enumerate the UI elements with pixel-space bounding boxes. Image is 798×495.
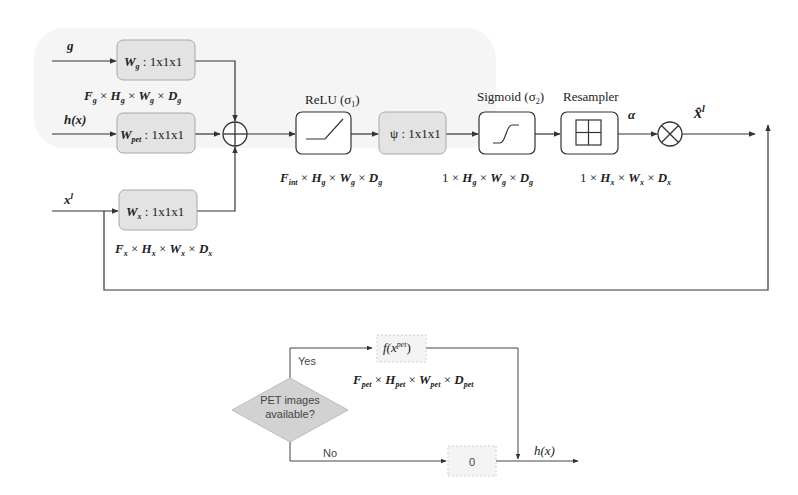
- resampler-block: [561, 112, 618, 154]
- decision-text-line1: PET images: [260, 394, 320, 406]
- psi-block-label: ψ : 1x1x1: [390, 126, 441, 141]
- alpha-label: α: [628, 107, 636, 122]
- resampler-label: Resampler: [563, 89, 619, 104]
- yes-label: Yes: [298, 355, 316, 367]
- multiply-operator-icon: [658, 122, 682, 146]
- attention-gate-diagram: g h(x) xl Wg : 1x1x1 Wpet : 1x1x1 Wx : 1…: [0, 0, 798, 495]
- dims-resampler-out: 1 × Hx × Wx × Dx: [580, 170, 671, 187]
- dims-g: Fg × Hg × Wg × Dg: [83, 88, 181, 105]
- input-g-label: g: [66, 38, 74, 53]
- dims-x: Fx × Hx × Wx × Dx: [114, 241, 212, 258]
- wg-block-label: Wg : 1x1x1: [124, 54, 182, 71]
- no-label: No: [323, 447, 337, 459]
- output-xhat-label: x̂l: [693, 103, 705, 121]
- wpet-block-label: Wpet : 1x1x1: [120, 127, 184, 144]
- sigmoid-label: Sigmoid (σ2): [477, 89, 544, 106]
- dims-sigmoid-out: 1 × Hg × Wg × Dg: [442, 170, 533, 187]
- sigmoid-block: [479, 112, 535, 154]
- input-xl-label: xl: [63, 191, 74, 207]
- input-hx-label: h(x): [64, 112, 86, 127]
- wx-block-label: Wx : 1x1x1: [126, 204, 184, 221]
- output-hx-label: h(x): [534, 443, 555, 458]
- relu-block: [296, 112, 351, 154]
- dims-pet: Fpet × Hpet × Wpet × Dpet: [352, 372, 474, 389]
- sum-operator-icon: [223, 122, 247, 146]
- zero-block-label: 0: [469, 456, 475, 468]
- decision-text-line2: available?: [265, 408, 315, 420]
- dims-relu-out: Fint × Hg × Wg × Dg: [279, 170, 382, 187]
